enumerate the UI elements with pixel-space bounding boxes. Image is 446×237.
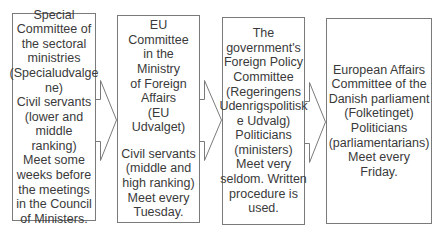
box-title: European Affairs Committee of the Danish… xyxy=(329,63,430,180)
eu-committee-foreign-affairs-box: EU Committee in the Ministry of Foreign … xyxy=(117,15,200,223)
box-title: The government's Foreign Policy Committe… xyxy=(219,26,307,216)
arrow-right-icon xyxy=(96,81,117,161)
government-foreign-policy-committee-box: The government's Foreign Policy Committe… xyxy=(222,17,305,225)
box-details: Civil servants (lower and middle ranking… xyxy=(16,95,92,226)
box-title: Special Committee of the sectoral minist… xyxy=(10,8,99,96)
arrow-right-icon xyxy=(305,83,326,163)
sectoral-ministries-committee-box: Special Committee of the sectoral minist… xyxy=(12,13,96,221)
committee-flow-diagram: Special Committee of the sectoral minist… xyxy=(0,0,446,237)
box-details: Civil servants (middle and high ranking)… xyxy=(121,147,195,220)
box-title: EU Committee in the Ministry of Foreign … xyxy=(121,18,196,135)
european-affairs-committee-parliament-box: European Affairs Committee of the Danish… xyxy=(326,18,432,224)
arrow-right-icon xyxy=(200,81,222,161)
